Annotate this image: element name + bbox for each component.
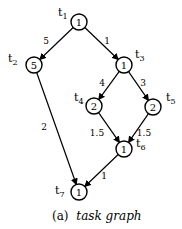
node-t3: 1t3 bbox=[116, 48, 145, 73]
node-weight: 2 bbox=[91, 101, 97, 112]
nodes: 1t15t21t32t42t51t61t7 bbox=[8, 6, 176, 200]
node-weight: 5 bbox=[31, 60, 37, 71]
caption-text: task graph bbox=[76, 209, 141, 223]
edge-weight: 4 bbox=[99, 78, 105, 88]
node-weight: 1 bbox=[76, 17, 82, 28]
edge-weight: 3 bbox=[140, 78, 146, 88]
node-label: t4 bbox=[74, 91, 84, 106]
task-graph: 51431.51.521 1t15t21t32t42t51t61t7 (a) t… bbox=[0, 0, 182, 229]
node-weight: 1 bbox=[76, 187, 82, 198]
node-label: t3 bbox=[135, 48, 145, 63]
node-t2: 5t2 bbox=[8, 52, 42, 73]
node-label: t7 bbox=[55, 184, 65, 199]
node-weight: 1 bbox=[121, 144, 127, 155]
edge-t1-t3 bbox=[85, 28, 118, 60]
caption-prefix: (a) bbox=[52, 209, 69, 223]
edge-weight: 5 bbox=[43, 36, 49, 46]
node-label: t6 bbox=[136, 137, 146, 152]
node-label: t2 bbox=[8, 52, 18, 67]
edge-weight: 1 bbox=[104, 36, 110, 46]
node-t7: 1t7 bbox=[55, 184, 87, 200]
node-label: t1 bbox=[58, 6, 68, 21]
caption: (a) task graph bbox=[52, 209, 142, 223]
node-weight: 1 bbox=[121, 60, 127, 71]
node-t5: 2t5 bbox=[145, 91, 176, 115]
node-label: t5 bbox=[166, 91, 176, 106]
edge-weight: 1.5 bbox=[90, 128, 105, 138]
edge-weight: 1 bbox=[101, 171, 107, 181]
edge-weight: 2 bbox=[41, 122, 47, 132]
node-weight: 2 bbox=[150, 102, 156, 113]
node-t4: 2t4 bbox=[74, 91, 102, 114]
node-t1: 1t1 bbox=[58, 6, 87, 30]
